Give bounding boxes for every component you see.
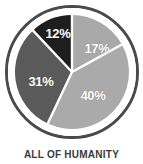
chart-caption: ALL OF HUMANITY — [0, 150, 143, 160]
pie-chart-figure: 17%40%31%12% ALL OF HUMANITY — [0, 0, 143, 164]
pie-chart-graphic: 17%40%31%12% — [0, 0, 143, 144]
pie-svg — [0, 0, 143, 144]
